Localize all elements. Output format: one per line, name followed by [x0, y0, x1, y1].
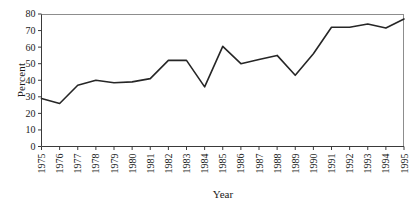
- percent-series-line: [42, 19, 405, 103]
- y-tick-label: 0: [31, 141, 36, 152]
- plot-area: 01020304050607080 1975197619771978197919…: [0, 0, 415, 208]
- x-tick-label: 1981: [145, 154, 156, 174]
- x-axis-title: Year: [41, 188, 405, 201]
- x-tick-label: 1983: [181, 154, 192, 174]
- x-tick-label: 1987: [254, 154, 265, 174]
- y-tick-label: 10: [26, 124, 36, 135]
- y-tick-group: 01020304050607080: [26, 8, 42, 152]
- y-tick-label: 70: [26, 25, 36, 36]
- x-tick-label: 1990: [308, 154, 319, 174]
- y-tick-label: 60: [26, 42, 36, 53]
- x-tick-label: 1995: [399, 154, 410, 174]
- y-tick-label: 30: [26, 91, 36, 102]
- x-tick-label: 1994: [380, 154, 391, 174]
- x-tick-label: 1979: [109, 154, 120, 174]
- y-tick-label: 80: [26, 8, 36, 19]
- x-tick-label: 1978: [90, 154, 101, 174]
- y-tick-label: 40: [26, 75, 36, 86]
- x-tick-group: 1975197619771978197919801981198219831984…: [36, 147, 410, 174]
- x-tick-label: 1991: [326, 154, 337, 174]
- x-tick-label: 1980: [127, 154, 138, 174]
- x-tick-label: 1993: [362, 154, 373, 174]
- line-chart-figure: Percent 01020304050607080 19751976197719…: [0, 0, 415, 208]
- x-tick-label: 1976: [54, 154, 65, 174]
- x-tick-label: 1986: [235, 154, 246, 174]
- x-tick-label: 1988: [272, 154, 283, 174]
- y-tick-label: 50: [26, 58, 36, 69]
- y-tick-label: 20: [26, 108, 36, 119]
- x-tick-label: 1977: [72, 154, 83, 174]
- x-tick-label: 1982: [163, 154, 174, 174]
- x-tick-label: 1989: [290, 154, 301, 174]
- x-tick-label: 1985: [217, 154, 228, 174]
- x-tick-label: 1984: [199, 154, 210, 174]
- x-tick-label: 1992: [344, 154, 355, 174]
- x-tick-label: 1975: [36, 154, 47, 174]
